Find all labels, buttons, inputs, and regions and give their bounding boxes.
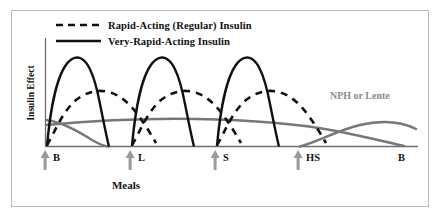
meal-arrow-breakfast: [41, 150, 50, 170]
meal-arrow-lunch: [126, 150, 135, 170]
rapid-acting-dose-supper: [217, 91, 326, 145]
meal-arrows: [41, 150, 303, 170]
legend-label-rapid-acting: Rapid-Acting (Regular) Insulin: [108, 20, 252, 31]
x-tick-label-bedtime: HS: [306, 152, 320, 163]
very-rapid-dose-lunch: [132, 58, 194, 147]
x-tick-label-lunch: L: [138, 152, 145, 163]
y-axis-title: Insulin Effect: [26, 48, 36, 138]
nph-or-lente-annotation: NPH or Lente: [330, 90, 390, 101]
meal-arrow-bedtime: [294, 150, 303, 170]
x-axis-title: Meals: [95, 179, 157, 191]
very-rapid-dose-breakfast: [47, 58, 109, 147]
chart-canvas: [0, 0, 441, 219]
nph-lente-curves: [46, 119, 416, 147]
very-rapid-dose-supper: [217, 58, 279, 147]
x-tick-label-next-breakfast: B: [398, 152, 405, 163]
x-tick-label-supper: S: [223, 152, 229, 163]
insulin-effect-chart: Rapid-Acting (Regular) Insulin Very-Rapi…: [0, 0, 441, 219]
x-tick-label-breakfast: B: [53, 152, 60, 163]
meal-arrow-supper: [211, 150, 220, 170]
legend-label-very-rapid-acting: Very-Rapid-Acting Insulin: [108, 36, 230, 47]
